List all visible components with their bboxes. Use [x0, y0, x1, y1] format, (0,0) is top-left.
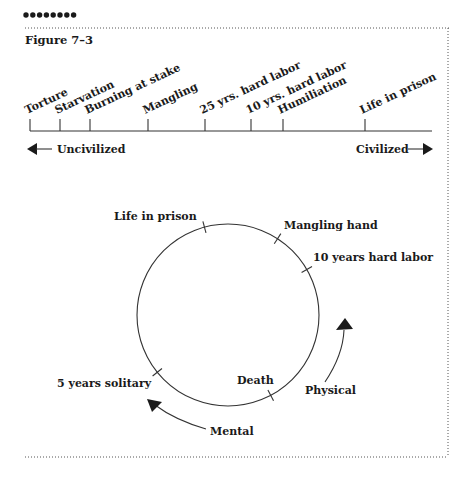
circle-point-label: 5 years solitary [57, 377, 152, 390]
bullet-dot [23, 12, 28, 17]
circle-ticks: Life in prisonMangling hand10 years hard… [57, 210, 433, 401]
mental-label: Mental [210, 425, 254, 438]
civilized-arrow-icon [408, 143, 433, 155]
scale-ticks: TortureStarvationBurning at stakeManglin… [23, 58, 438, 131]
scale-tick-label: Life in prison [358, 70, 438, 117]
uncivilized-arrow-icon [27, 143, 52, 155]
civilized-label: Civilized [356, 143, 409, 156]
bullet-dot [44, 12, 49, 17]
circle-point-label: Mangling hand [284, 219, 378, 232]
punishment-circle: Life in prisonMangling hand10 years hard… [57, 210, 433, 438]
cycle-circle [137, 224, 319, 406]
bullet-dot [64, 12, 69, 17]
circle-tick [274, 234, 281, 244]
physical-arrow-icon [325, 318, 353, 382]
figure-title: Figure 7–3 [25, 33, 93, 47]
mental-arrow-icon [147, 399, 206, 429]
bullet-dot [71, 12, 76, 17]
circle-point-label: Life in prison [114, 210, 197, 223]
circle-tick [302, 267, 312, 273]
circle-point-label: Death [237, 374, 274, 387]
uncivilized-label: Uncivilized [57, 143, 126, 156]
bullet-dot [51, 12, 56, 17]
civilization-scale: TortureStarvationBurning at stakeManglin… [23, 58, 438, 156]
circle-tick [268, 390, 274, 401]
circle-point-label: 10 years hard labor [313, 251, 433, 264]
physical-label: Physical [305, 384, 356, 397]
bullet-dot [37, 12, 42, 17]
header-bullets [23, 12, 76, 17]
bullet-dot [57, 12, 62, 17]
figure-canvas: Figure 7–3 TortureStarvationBurning at s… [0, 0, 469, 485]
bullet-dot [30, 12, 35, 17]
circle-tick [153, 368, 162, 376]
